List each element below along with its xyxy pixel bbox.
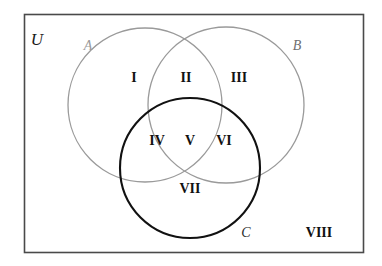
region-label-vi: VI xyxy=(216,133,232,148)
set-a-label: A xyxy=(83,38,93,53)
region-label-iii: III xyxy=(231,70,247,85)
region-label-i: I xyxy=(131,70,136,85)
universe-label: U xyxy=(31,30,45,49)
region-label-viii: VIII xyxy=(306,225,332,240)
region-label-v: V xyxy=(185,133,195,148)
set-b-label: B xyxy=(293,38,302,53)
region-label-vii: VII xyxy=(179,181,200,196)
region-label-ii: II xyxy=(181,70,192,85)
region-label-iv: IV xyxy=(149,133,165,148)
venn-diagram-canvas: U A B C I II III IV V VI VII VIII xyxy=(0,0,382,266)
set-c-label: C xyxy=(241,225,251,240)
venn-diagram-figure: U A B C I II III IV V VI VII VIII xyxy=(0,0,382,266)
